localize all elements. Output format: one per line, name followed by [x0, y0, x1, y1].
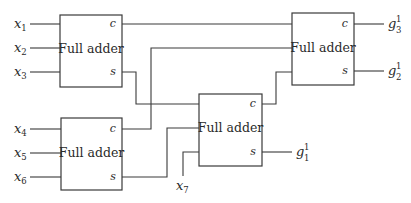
- full-adder-block-3: Full adder c s: [290, 13, 356, 85]
- input-label-x6: x6: [14, 169, 27, 186]
- input-label-x7: x7: [176, 178, 189, 195]
- full-adder-block-4: Full adder c s: [59, 118, 125, 190]
- full-adder-tree-diagram: Full adder c s Full adder c s Full adder…: [0, 0, 411, 203]
- carry-port-label: c: [250, 97, 256, 110]
- svg-text:2: 2: [396, 72, 401, 82]
- output-label-g1: g 1 1: [296, 142, 309, 163]
- block-label: Full adder: [290, 40, 356, 55]
- full-adder-block-2: Full adder c s: [198, 94, 264, 166]
- output-label-g2: g 1 2: [388, 61, 401, 82]
- svg-text:1: 1: [396, 61, 401, 71]
- svg-text:1: 1: [304, 142, 309, 152]
- wire-fa1-sum-to-fa2: [122, 72, 199, 104]
- input-label-x1: x1: [14, 16, 27, 33]
- carry-port-label: c: [110, 17, 116, 30]
- wire-x7-to-fa2: [183, 152, 199, 176]
- block-label: Full adder: [58, 41, 124, 56]
- carry-port-label: c: [342, 17, 348, 30]
- input-label-x2: x2: [14, 40, 27, 57]
- carry-port-label: c: [110, 122, 116, 135]
- svg-text:3: 3: [396, 25, 401, 35]
- block-label: Full adder: [59, 145, 125, 160]
- sum-port-label: s: [110, 170, 116, 183]
- full-adder-block-1: Full adder c s: [58, 15, 124, 87]
- svg-text:1: 1: [396, 14, 401, 24]
- input-label-x4: x4: [14, 121, 27, 138]
- svg-text:1: 1: [304, 153, 309, 163]
- block-label: Full adder: [198, 120, 264, 135]
- sum-port-label: s: [342, 64, 348, 77]
- input-label-x3: x3: [14, 64, 27, 81]
- sum-port-label: s: [110, 65, 116, 78]
- output-label-g3: g 1 3: [388, 14, 401, 35]
- input-label-x5: x5: [14, 145, 27, 162]
- sum-port-label: s: [250, 145, 256, 158]
- wire-fa2-carry-to-fa3: [262, 72, 292, 104]
